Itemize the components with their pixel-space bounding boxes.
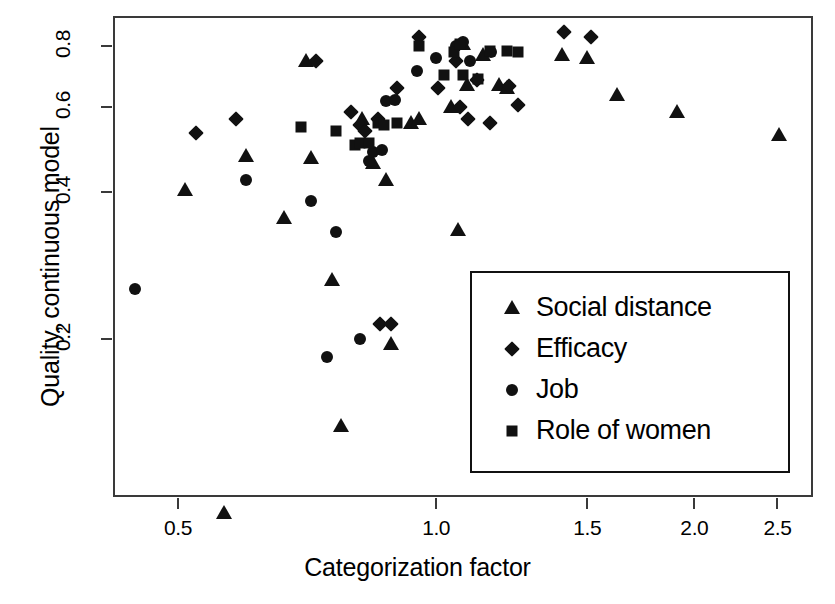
y-tick-mark [101, 45, 112, 47]
x-tick-label: 1.0 [422, 516, 450, 540]
legend-marker-square-icon [494, 416, 536, 446]
legend-item-label: Social distance [536, 292, 712, 323]
x-axis-label: Categorization factor [0, 553, 835, 582]
x-tick-label: 0.5 [164, 516, 192, 540]
x-tick-label: 1.5 [573, 516, 601, 540]
legend-item-label: Role of women [536, 415, 711, 446]
x-tick-mark [776, 498, 778, 509]
legend-item: Role of women [494, 410, 788, 451]
data-point-triangle [216, 505, 232, 519]
legend-item-label: Efficacy [536, 333, 627, 364]
legend-item: Efficacy [494, 328, 788, 369]
x-tick-mark [177, 498, 179, 509]
x-tick-mark [693, 498, 695, 509]
x-tick-mark [435, 498, 437, 509]
scatter-plot-figure: 0.51.01.52.02.50.20.40.60.8 Categorizati… [0, 0, 835, 604]
legend-marker-circle-icon [494, 375, 536, 405]
legend-item: Job [494, 369, 788, 410]
legend-box: Social distanceEfficacyJobRole of women [470, 271, 790, 473]
x-tick-mark [586, 498, 588, 509]
x-tick-label: 2.5 [763, 516, 791, 540]
y-tick-mark [101, 191, 112, 193]
y-tick-mark [101, 338, 112, 340]
legend-marker-triangle-icon [494, 293, 536, 323]
x-tick-label: 2.0 [680, 516, 708, 540]
legend-item: Social distance [494, 287, 788, 328]
legend-item-label: Job [536, 374, 578, 405]
y-tick-mark [101, 106, 112, 108]
y-axis-label: Quality, continuous model [36, 32, 65, 502]
legend-marker-diamond-icon [494, 334, 536, 364]
